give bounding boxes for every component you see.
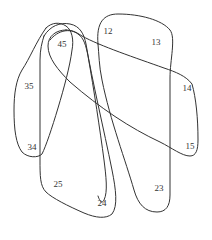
label-35: 35 [25,82,34,91]
label-15: 15 [186,142,195,151]
label-34: 34 [28,143,37,152]
label-25: 25 [54,180,63,189]
label-45: 45 [58,40,67,49]
curve-tall [40,24,116,218]
label-23: 23 [155,184,164,193]
curve-thin [50,31,106,202]
label-12: 12 [104,27,113,36]
label-24: 24 [98,199,107,208]
curve-diagonal [48,30,198,156]
label-13: 13 [152,38,161,47]
label-14: 14 [183,84,192,93]
